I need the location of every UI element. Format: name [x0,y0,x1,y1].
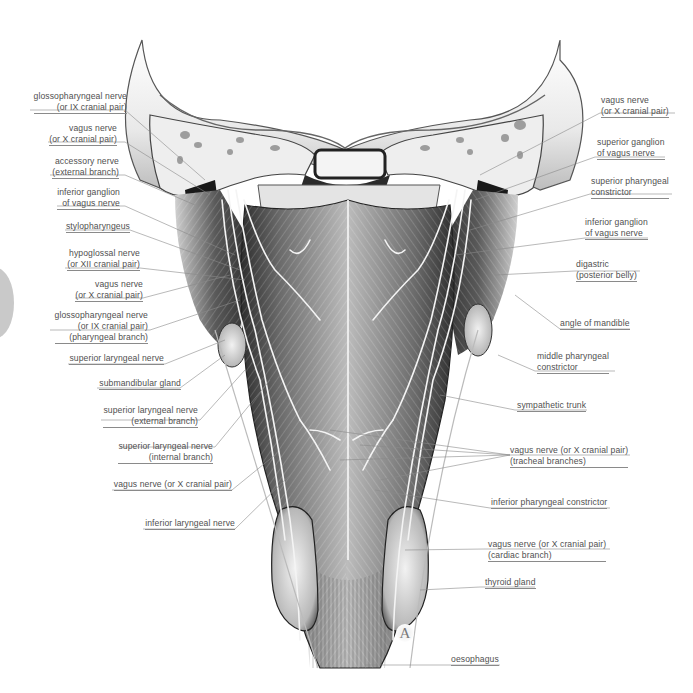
label-superior-laryngeal-internal: superior laryngeal nerve (internal branc… [118,441,213,464]
label-accessory-nerve: accessory nerve (external branch) [52,156,119,179]
label-angle-of-mandible: angle of mandible [560,318,630,330]
label-submandibular-gland: submandibular gland [99,378,181,390]
label-glossopharyngeal-nerve: glossopharyngeal nerve (or IX cranial pa… [34,91,127,114]
thyroid-lobe-right [382,507,428,631]
label-superior-pharyngeal-constrictor: superior pharyngeal constrictor [591,176,669,199]
label-vagus-nerve-lower-left: vagus nerve (or X cranial pair) [114,479,232,491]
plate-letter: A [396,624,414,642]
label-inferior-ganglion-right: inferior ganglion of vagus nerve [585,217,648,240]
label-superior-ganglion: superior ganglion of vagus nerve [597,137,665,160]
label-superior-laryngeal-nerve: superior laryngeal nerve [69,353,164,365]
label-vagus-nerve-mid-left: vagus nerve (or X cranial pair) [75,279,143,302]
label-digastric: digastric (posterior belly) [576,259,637,282]
label-inferior-laryngeal-nerve: inferior laryngeal nerve [145,518,235,530]
label-inferior-ganglion-left: inferior ganglion of vagus nerve [57,187,120,210]
label-vagus-nerve-upper-right: vagus nerve (or X cranial pair) [601,95,669,118]
label-sympathetic-trunk: sympathetic trunk [517,400,586,412]
label-inferior-pharyngeal-constrictor: inferior pharyngeal constrictor [491,497,607,509]
submandibular-gland-left [218,323,246,367]
anatomy-figure: glossopharyngeal nerve (or IX cranial pa… [0,0,693,693]
label-thyroid-gland: thyroid gland [485,577,536,589]
label-vagus-nerve-upper-left: vagus nerve (or X cranial pair) [49,123,117,146]
label-oesophagus: oesophagus [451,654,499,666]
label-middle-pharyngeal-constrictor: middle pharyngeal constrictor [537,351,609,374]
label-superior-laryngeal-external: superior laryngeal nerve (external branc… [103,405,198,428]
label-hypoglossal-nerve: hypoglossal nerve (or XII cranial pair) [67,248,140,271]
basilar-bone [315,150,385,178]
label-glossopharyngeal-pharyngeal-branch: glossopharyngeal nerve (or IX cranial pa… [55,310,148,344]
label-stylopharyngeus: stylopharyngeus [66,221,130,233]
label-vagus-cardiac-branch: vagus nerve (or X cranial pair) (cardiac… [488,539,606,562]
label-vagus-tracheal-branches: vagus nerve (or X cranial pair) (trachea… [510,445,628,468]
